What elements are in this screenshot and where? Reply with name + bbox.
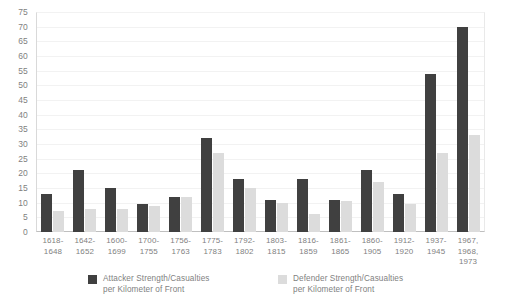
x-axis-tick-label: 1642- 1652 (69, 236, 101, 257)
x-axis-tick-label: 1700- 1755 (133, 236, 165, 257)
bar-attacker (105, 188, 116, 232)
legend-label-attacker: Attacker Strength/Casualties per Kilomet… (103, 274, 210, 295)
y-axis-tick: 60 (18, 52, 28, 61)
bar-defender (213, 153, 224, 232)
bar-group (292, 12, 324, 232)
bar-attacker (73, 170, 84, 232)
y-axis-tick: 30 (18, 140, 28, 149)
y-axis-tick: 50 (18, 81, 28, 90)
bar-attacker (169, 197, 180, 232)
bar-group (69, 12, 101, 232)
bar-group (261, 12, 293, 232)
legend-swatch-attacker-icon (88, 275, 97, 284)
x-axis-tick-label: 1792- 1802 (229, 236, 261, 257)
bar-group (37, 12, 69, 232)
bar-defender (245, 188, 256, 232)
bar-attacker (457, 27, 468, 232)
y-axis-tick: 70 (18, 22, 28, 31)
bar-attacker (233, 179, 244, 232)
bar-group (420, 12, 452, 232)
y-axis-tick: 15 (18, 184, 28, 193)
bar-defender (341, 201, 352, 232)
bar-defender (149, 206, 160, 232)
bar-defender (373, 182, 384, 232)
legend-label-defender: Defender Strength/Casualties per Kilomet… (293, 274, 403, 295)
bar-group (356, 12, 388, 232)
bar-attacker (329, 200, 340, 232)
bar-attacker (297, 179, 308, 232)
bar-defender (277, 203, 288, 232)
y-axis-tick: 25 (18, 154, 28, 163)
x-axis-tick-label: 1775- 1783 (197, 236, 229, 257)
bar-defender (469, 135, 480, 232)
bar-defender (181, 197, 192, 232)
x-axis-tick-label: 1600- 1699 (101, 236, 133, 257)
x-axis-tick-label: 1861- 1865 (324, 236, 356, 257)
y-axis-tick: 65 (18, 37, 28, 46)
y-axis-tick: 0 (23, 228, 28, 237)
bar-attacker (137, 204, 148, 232)
bar-group (324, 12, 356, 232)
bar-defender (437, 153, 448, 232)
bar-attacker (265, 200, 276, 232)
x-axis-tick-label: 1756- 1763 (165, 236, 197, 257)
y-axis-tick: 40 (18, 110, 28, 119)
bar-group (101, 12, 133, 232)
y-axis-tick: 5 (23, 213, 28, 222)
bar-defender (85, 209, 96, 232)
bar-defender (117, 209, 128, 232)
bar-group (229, 12, 261, 232)
bar-attacker (201, 138, 212, 232)
bar-group (388, 12, 420, 232)
bars-layer (37, 12, 484, 232)
y-axis: 757065605550454035302520151050 (0, 12, 32, 232)
x-axis-tick-label: 1803- 1815 (261, 236, 293, 257)
bar-defender (309, 214, 320, 232)
bar-group (165, 12, 197, 232)
x-axis-tick-label: 1912- 1920 (388, 236, 420, 257)
x-axis-tick-label: 1967, 1968, 1973 (452, 236, 484, 268)
bar-attacker (41, 194, 52, 232)
y-axis-tick: 75 (18, 8, 28, 17)
bar-defender (53, 211, 64, 232)
bar-attacker (361, 170, 372, 232)
x-axis-tick-label: 1816- 1859 (292, 236, 324, 257)
y-axis-tick: 45 (18, 96, 28, 105)
y-axis-tick: 55 (18, 66, 28, 75)
legend-item-attacker: Attacker Strength/Casualties per Kilomet… (88, 274, 210, 295)
y-axis-tick: 20 (18, 169, 28, 178)
chart-legend: Attacker Strength/Casualties per Kilomet… (0, 272, 509, 302)
bar-group (197, 12, 229, 232)
legend-item-defender: Defender Strength/Casualties per Kilomet… (278, 274, 403, 295)
x-axis-tick-label: 1860- 1905 (356, 236, 388, 257)
legend-swatch-defender-icon (278, 275, 287, 284)
bar-chart: 757065605550454035302520151050 1618- 164… (0, 0, 509, 306)
y-axis-tick: 10 (18, 198, 28, 207)
x-axis-tick-label: 1937- 1945 (420, 236, 452, 257)
bar-attacker (393, 194, 404, 232)
bar-group (133, 12, 165, 232)
bar-defender (405, 204, 416, 232)
y-axis-tick: 35 (18, 125, 28, 134)
x-axis-tick-label: 1618- 1648 (37, 236, 69, 257)
bar-attacker (425, 74, 436, 232)
bar-group (452, 12, 484, 232)
